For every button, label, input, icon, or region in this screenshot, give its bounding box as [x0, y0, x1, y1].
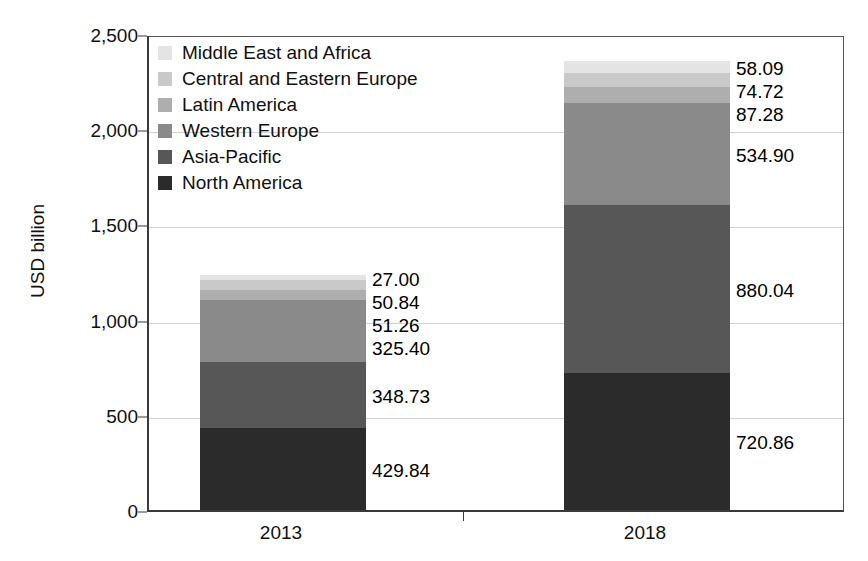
y-tick-mark — [138, 36, 147, 37]
legend-swatch-icon — [158, 98, 172, 112]
y-tick-mark — [138, 321, 147, 322]
y-tick-label: 1,000 — [90, 311, 138, 333]
data-label: 720.86 — [736, 432, 794, 454]
stacked-bar-chart: USD billion 05001,0001,5002,0002,500 201… — [0, 0, 868, 561]
data-label: 348.73 — [372, 386, 430, 408]
legend-swatch-icon — [158, 124, 172, 138]
bar-segment[interactable] — [564, 87, 730, 104]
data-label: 880.04 — [736, 280, 794, 302]
data-label: 87.28 — [736, 104, 784, 126]
chart-legend: Middle East and AfricaCentral and Easter… — [158, 40, 418, 196]
gridline — [149, 227, 843, 228]
bar-segment[interactable] — [564, 103, 730, 205]
data-label: 74.72 — [736, 81, 784, 103]
data-label: 429.84 — [372, 460, 430, 482]
legend-swatch-icon — [158, 46, 172, 60]
y-tick-mark — [138, 131, 147, 132]
y-tick-label: 2,500 — [90, 25, 138, 47]
y-tick-mark — [138, 226, 147, 227]
data-label: 27.00 — [372, 269, 420, 291]
y-tick-label: 1,500 — [90, 215, 138, 237]
bar-segment[interactable] — [564, 73, 730, 87]
bar-segment[interactable] — [564, 205, 730, 373]
legend-item[interactable]: Middle East and Africa — [158, 40, 418, 66]
legend-label: Central and Eastern Europe — [182, 68, 418, 90]
y-tick-label: 0 — [127, 501, 138, 523]
legend-item[interactable]: Asia-Pacific — [158, 144, 418, 170]
legend-label: Asia-Pacific — [182, 146, 281, 168]
x-tick-label: 2018 — [624, 522, 666, 544]
data-label: 50.84 — [372, 292, 420, 314]
legend-item[interactable]: Latin America — [158, 92, 418, 118]
legend-label: Middle East and Africa — [182, 42, 371, 64]
x-tick-label: 2013 — [260, 522, 302, 544]
bar-2018[interactable] — [564, 61, 730, 510]
x-tick-mark — [463, 512, 464, 521]
bar-segment[interactable] — [200, 280, 366, 290]
legend-label: Latin America — [182, 94, 297, 116]
data-label: 51.26 — [372, 315, 420, 337]
data-label: 325.40 — [372, 338, 430, 360]
y-axis-ticks: 05001,0001,5002,0002,500 — [0, 0, 138, 561]
bar-segment[interactable] — [200, 362, 366, 428]
bar-2013[interactable] — [200, 275, 366, 510]
bar-segment[interactable] — [200, 428, 366, 510]
y-tick-mark — [138, 416, 147, 417]
legend-item[interactable]: Central and Eastern Europe — [158, 66, 418, 92]
legend-swatch-icon — [158, 150, 172, 164]
bar-segment[interactable] — [200, 290, 366, 300]
y-tick-label: 500 — [106, 406, 138, 428]
bar-segment[interactable] — [200, 300, 366, 362]
bar-segment[interactable] — [564, 373, 730, 510]
legend-item[interactable]: North America — [158, 170, 418, 196]
legend-swatch-icon — [158, 72, 172, 86]
bar-segment[interactable] — [200, 275, 366, 280]
bar-segment[interactable] — [564, 61, 730, 72]
legend-label: North America — [182, 172, 302, 194]
data-label: 534.90 — [736, 145, 794, 167]
y-tick-label: 2,000 — [90, 120, 138, 142]
legend-item[interactable]: Western Europe — [158, 118, 418, 144]
legend-swatch-icon — [158, 176, 172, 190]
y-tick-mark — [138, 512, 147, 513]
data-label: 58.09 — [736, 58, 784, 80]
legend-label: Western Europe — [182, 120, 319, 142]
